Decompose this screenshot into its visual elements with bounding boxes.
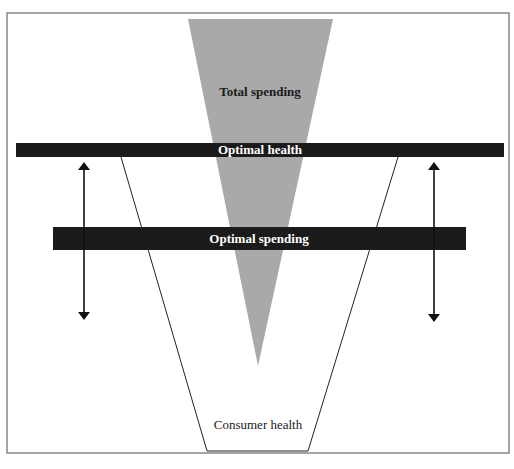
optimal-spending-label: Optimal spending — [209, 231, 308, 247]
optimal-health-label: Optimal health — [218, 142, 302, 158]
total-spending-label: Total spending — [219, 84, 301, 100]
total-spending-funnel — [188, 19, 333, 366]
consumer-health-label: Consumer health — [214, 417, 302, 433]
